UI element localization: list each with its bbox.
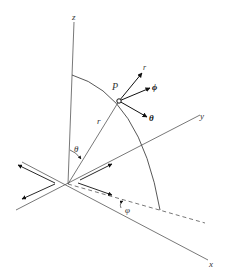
x-axis-label: x (208, 259, 213, 269)
unit-vector-theta-label: θ (149, 113, 154, 123)
point-p (117, 99, 121, 103)
unit-vector-r-label: r (143, 63, 147, 72)
radius-label: r (97, 116, 101, 126)
phi-angle-arc (120, 201, 123, 208)
point-p-label: P (111, 81, 118, 92)
y-direction-arrow-back (22, 184, 55, 199)
z-axis (68, 22, 74, 184)
unit-vector-phi-label: ϕ (152, 82, 157, 92)
x-direction-arrow (78, 183, 112, 195)
projection-line (68, 184, 205, 223)
y-axis (16, 115, 200, 210)
x-axis (22, 162, 208, 260)
unit-vector-phi (119, 88, 150, 101)
unit-vector-theta (119, 101, 147, 117)
y-direction-arrow (80, 164, 112, 180)
theta-angle-label: θ (74, 144, 79, 154)
spherical-coordinates-diagram: z y x r θ φ r ϕ θ P (0, 0, 228, 277)
radius-line (68, 101, 119, 184)
unit-vector-r (119, 73, 142, 101)
phi-angle-label: φ (125, 205, 130, 215)
x-direction-arrow-back (18, 165, 55, 183)
y-axis-label: y (199, 111, 204, 121)
z-axis-label: z (71, 12, 76, 22)
